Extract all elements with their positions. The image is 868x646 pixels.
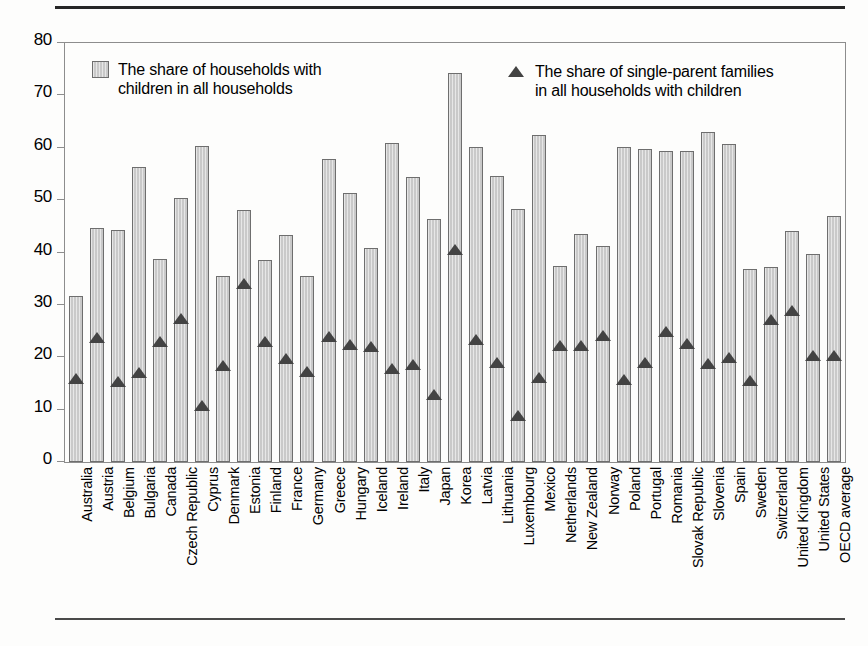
data-point-marker: [595, 330, 611, 341]
data-point-marker: [573, 340, 589, 351]
bar: [785, 231, 799, 462]
x-axis-label-text: Portugal: [649, 467, 664, 519]
bar: [343, 193, 357, 462]
y-axis-tick-mark: [57, 409, 64, 410]
x-axis-label-text: Korea: [459, 467, 474, 505]
x-axis-label-text: Germany: [311, 467, 326, 525]
x-axis-label: Finland: [269, 467, 284, 617]
x-axis-label-text: Ireland: [396, 467, 411, 510]
y-axis-tick-mark: [57, 461, 64, 462]
bar-group: [469, 43, 483, 462]
data-point-marker: [236, 278, 252, 289]
data-point-marker: [784, 305, 800, 316]
x-axis-label-text: Latvia: [480, 467, 495, 505]
bar-group: [659, 43, 673, 462]
bar-group: [574, 43, 588, 462]
bar-group: [111, 43, 125, 462]
x-axis-label: Portugal: [649, 467, 664, 617]
triangle-marker-icon: [508, 66, 524, 77]
data-point-marker: [679, 338, 695, 349]
bar: [764, 267, 778, 462]
x-axis-label: Slovenia: [712, 467, 727, 617]
x-axis-label: Sweden: [754, 467, 769, 617]
data-point-marker: [405, 359, 421, 370]
x-axis-label-text: Romania: [670, 467, 685, 524]
x-axis-label: Norway: [607, 467, 622, 617]
x-axis-label: United States: [817, 467, 832, 617]
x-axis-label: United Kingdom: [796, 467, 811, 617]
chart-page: 01020304050607080 AustraliaAustriaBelgiu…: [0, 0, 868, 646]
y-axis-tick-mark: [57, 252, 64, 253]
x-axis-label: Japan: [438, 467, 453, 617]
x-axis-label-text: Iceland: [375, 467, 390, 512]
bar: [448, 73, 462, 462]
bar-group: [216, 43, 230, 462]
x-axis-label: Germany: [311, 467, 326, 617]
y-axis-tick-label: 20: [34, 345, 52, 362]
data-point-marker: [173, 313, 189, 324]
bar: [680, 151, 694, 462]
y-axis-tick-label: 0: [43, 450, 52, 467]
plot-region: [65, 43, 845, 462]
bar-group: [553, 43, 567, 462]
data-point-marker: [510, 410, 526, 421]
x-axis-label: Lithuania: [501, 467, 516, 617]
bar: [385, 143, 399, 462]
bar: [322, 159, 336, 462]
x-axis-label-text: Japan: [438, 467, 453, 506]
y-axis-tick-mark: [57, 42, 64, 43]
bar-group: [174, 43, 188, 462]
x-axis-label-text: Lithuania: [501, 467, 516, 524]
bar-group: [69, 43, 83, 462]
bar: [659, 151, 673, 462]
x-axis-label-text: Slovak Republic: [691, 467, 706, 568]
y-axis-tick-label: 60: [34, 136, 52, 153]
data-point-marker: [447, 244, 463, 255]
chart-plot-frame: [64, 42, 846, 463]
y-axis-tick-mark: [57, 147, 64, 148]
x-axis-label: Poland: [628, 467, 643, 617]
bar: [827, 216, 841, 462]
data-point-marker: [257, 336, 273, 347]
page-rule-top: [55, 6, 845, 9]
x-axis-label: Spain: [733, 467, 748, 617]
x-axis-label-text: Poland: [628, 467, 643, 511]
bar: [469, 147, 483, 462]
x-axis-label-text: Switzerland: [775, 467, 790, 540]
data-point-marker: [552, 340, 568, 351]
x-axis-label-text: France: [290, 467, 305, 511]
legend-item-households: The share of households with children in…: [92, 60, 321, 98]
bar-group: [385, 43, 399, 462]
data-point-marker: [489, 357, 505, 368]
x-axis-label-text: OECD average: [838, 467, 853, 563]
bar-group: [511, 43, 525, 462]
y-axis-tick-mark: [57, 94, 64, 95]
x-axis-label: Estonia: [248, 467, 263, 617]
x-axis-label-text: United States: [817, 467, 832, 551]
data-point-marker: [215, 360, 231, 371]
x-axis-label-text: Belgium: [122, 467, 137, 518]
bar: [364, 248, 378, 462]
x-axis-label: Australia: [80, 467, 95, 617]
data-point-marker: [278, 353, 294, 364]
legend-label-single-parent: The share of single-parent families in a…: [535, 62, 773, 100]
bar-group: [743, 43, 757, 462]
bar: [90, 228, 104, 462]
bar: [258, 260, 272, 462]
x-axis-label: New Zealand: [585, 467, 600, 617]
x-axis-label-text: Luxembourg: [522, 467, 537, 546]
bar-group: [722, 43, 736, 462]
bar: [279, 235, 293, 462]
x-axis-label: Canada: [164, 467, 179, 617]
bar: [132, 167, 146, 462]
x-axis-label: Greece: [333, 467, 348, 617]
bar: [195, 146, 209, 462]
x-axis-label: Austria: [101, 467, 116, 617]
bar-group: [258, 43, 272, 462]
data-point-marker: [363, 341, 379, 352]
data-point-marker: [342, 339, 358, 350]
x-axis-label: Korea: [459, 467, 474, 617]
x-axis-label: Ireland: [396, 467, 411, 617]
bar-group: [364, 43, 378, 462]
x-axis-label-text: Hungary: [354, 467, 369, 520]
